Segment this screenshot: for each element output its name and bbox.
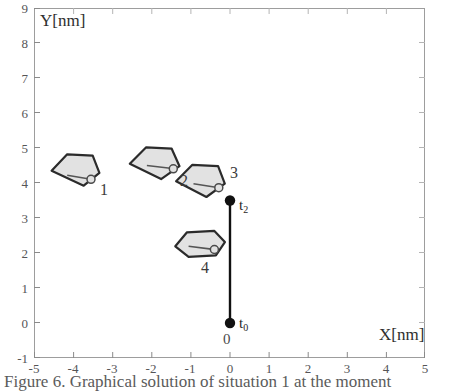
time-point-t2 bbox=[225, 195, 235, 205]
y-tick-label: 2 bbox=[4, 247, 28, 260]
x-axis-label: X[nm] bbox=[379, 326, 424, 343]
y-tick-label: 0 bbox=[4, 317, 28, 330]
t2-label: t2 bbox=[239, 198, 248, 213]
robot-1 bbox=[52, 154, 100, 185]
y-tick-label: 5 bbox=[4, 142, 28, 155]
robot-3-hub bbox=[215, 184, 223, 192]
robot-2 bbox=[130, 147, 180, 179]
y-tick-label: 9 bbox=[4, 2, 28, 15]
robot-4 bbox=[175, 231, 225, 257]
y-tick-label: 1 bbox=[4, 282, 28, 295]
robot-2-hub bbox=[169, 165, 177, 173]
y-tick-label: 3 bbox=[4, 212, 28, 225]
robot-4-hub bbox=[210, 246, 218, 254]
y-tick-label: 8 bbox=[4, 37, 28, 50]
robot-1-label: 1 bbox=[100, 182, 108, 198]
robot-2-body bbox=[130, 147, 180, 179]
t0-label: t0 bbox=[239, 316, 248, 331]
time-point-t0 bbox=[225, 318, 235, 328]
y-tick-label: 7 bbox=[4, 72, 28, 85]
robot-4-label: 4 bbox=[201, 260, 209, 276]
plot-area: Y[nm] X[nm] 1 2 3 4 t2 t0 0 bbox=[34, 8, 425, 358]
robot-3-label: 3 bbox=[230, 165, 238, 181]
y-axis-label: Y[nm] bbox=[40, 12, 85, 29]
robot-2-label: 2 bbox=[180, 173, 188, 189]
y-tick-label: 4 bbox=[4, 177, 28, 190]
origin-label: 0 bbox=[223, 332, 231, 347]
robot-1-hub bbox=[87, 175, 95, 183]
y-tick-label: 6 bbox=[4, 107, 28, 120]
figure-caption: Figure 6. Graphical solution of situatio… bbox=[4, 372, 461, 392]
y-tick-label: -1 bbox=[4, 352, 28, 365]
plot-canvas bbox=[34, 8, 425, 358]
